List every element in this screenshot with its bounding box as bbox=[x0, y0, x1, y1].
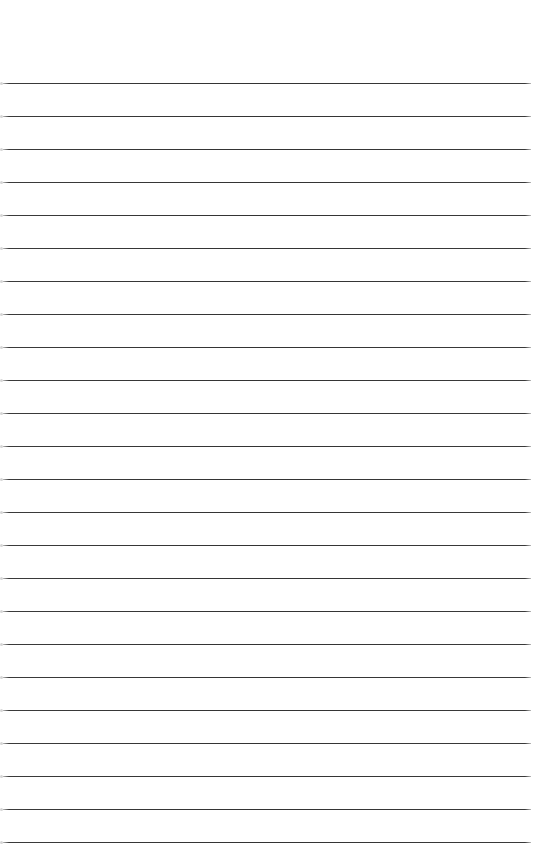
ruled-line bbox=[3, 182, 531, 183]
ruled-line bbox=[3, 710, 531, 711]
ruled-line bbox=[3, 578, 531, 579]
ruled-line bbox=[3, 776, 531, 777]
ruled-line bbox=[3, 314, 531, 315]
margin-dot bbox=[0, 511, 3, 514]
ruled-line bbox=[3, 380, 531, 381]
ruled-line bbox=[3, 743, 531, 744]
ruled-line bbox=[3, 347, 531, 348]
margin-dot bbox=[0, 115, 3, 118]
margin-dot bbox=[0, 214, 3, 217]
margin-dot bbox=[0, 643, 3, 646]
ruled-line bbox=[3, 83, 531, 84]
ruled-line bbox=[3, 644, 531, 645]
margin-dot bbox=[0, 676, 3, 679]
ruled-line bbox=[3, 512, 531, 513]
margin-dot bbox=[0, 412, 3, 415]
margin-dot bbox=[0, 577, 3, 580]
margin-dot bbox=[0, 775, 3, 778]
ruled-line bbox=[3, 446, 531, 447]
margin-dot bbox=[0, 280, 3, 283]
margin-dot bbox=[0, 379, 3, 382]
margin-dot bbox=[0, 82, 3, 85]
margin-dot bbox=[0, 346, 3, 349]
ruled-line bbox=[3, 116, 531, 117]
margin-dot bbox=[0, 247, 3, 250]
ruled-line bbox=[3, 842, 531, 843]
ruled-line bbox=[3, 149, 531, 150]
ruled-line bbox=[3, 215, 531, 216]
margin-dot bbox=[0, 610, 3, 613]
margin-dot bbox=[0, 808, 3, 811]
ruled-line bbox=[3, 545, 531, 546]
ruled-line bbox=[3, 281, 531, 282]
margin-dot bbox=[0, 841, 3, 844]
margin-dot bbox=[0, 181, 3, 184]
ruled-line bbox=[3, 479, 531, 480]
margin-dot bbox=[0, 709, 3, 712]
margin-dot bbox=[0, 445, 3, 448]
lined-paper-sheet bbox=[0, 0, 534, 864]
margin-dot bbox=[0, 544, 3, 547]
ruled-line bbox=[3, 248, 531, 249]
margin-dot bbox=[0, 742, 3, 745]
margin-dot bbox=[0, 313, 3, 316]
ruled-line bbox=[3, 611, 531, 612]
ruled-line bbox=[3, 677, 531, 678]
ruled-line bbox=[3, 809, 531, 810]
margin-dot bbox=[0, 478, 3, 481]
margin-dot bbox=[0, 148, 3, 151]
ruled-line bbox=[3, 413, 531, 414]
